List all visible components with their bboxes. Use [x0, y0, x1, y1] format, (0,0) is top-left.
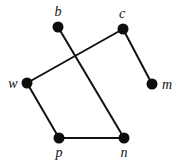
graph-edge-w-p	[27, 83, 59, 138]
graph-node-label-w: w	[8, 76, 18, 91]
graph-diagram: bcwmpn	[0, 0, 180, 163]
graph-canvas: bcwmpn	[0, 0, 180, 163]
graph-edge-c-m	[123, 29, 152, 84]
graph-node-label-c: c	[119, 6, 126, 21]
graph-node-label-b: b	[55, 4, 62, 19]
graph-node-label-n: n	[121, 145, 128, 160]
graph-edge-b-n	[58, 27, 124, 138]
edges-group	[27, 27, 152, 138]
graph-node-w	[22, 78, 33, 89]
graph-node-c	[118, 24, 129, 35]
graph-node-n	[119, 133, 130, 144]
graph-edge-c-w	[27, 29, 123, 83]
graph-node-m	[147, 79, 158, 90]
graph-node-label-p: p	[55, 145, 63, 160]
graph-node-p	[54, 133, 65, 144]
nodes-group	[22, 22, 158, 144]
graph-node-label-m: m	[162, 77, 172, 92]
graph-node-b	[53, 22, 64, 33]
